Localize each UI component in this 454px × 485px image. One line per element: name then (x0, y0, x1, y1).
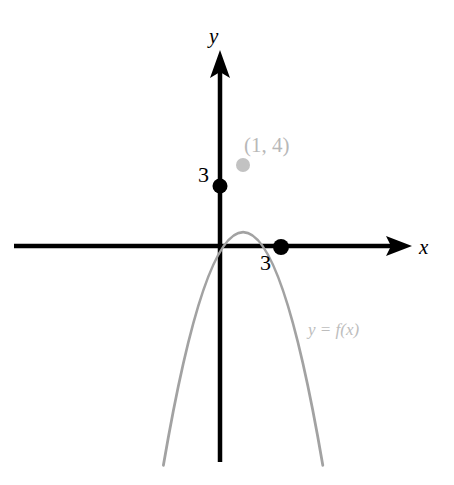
x-intercept-label: 3 (260, 252, 271, 274)
y-axis-label: y (209, 26, 218, 47)
x-axis-label: x (419, 237, 428, 258)
vertex-point-label: (1, 4) (244, 135, 290, 156)
plot-canvas (0, 0, 454, 485)
function-equation-label: y = f(x) (308, 321, 359, 338)
function-curve (163, 232, 322, 465)
y-intercept-label: 3 (198, 164, 209, 186)
graph-figure: y x 3 3 (1, 4) y = f(x) (0, 0, 454, 485)
vertex-dot (236, 158, 250, 172)
x-intercept-dot (273, 239, 289, 255)
y-intercept-dot (213, 179, 228, 194)
